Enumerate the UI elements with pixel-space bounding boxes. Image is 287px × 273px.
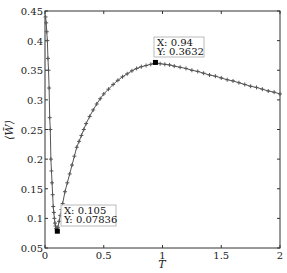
datatip-marker <box>153 60 158 65</box>
datatip-marker <box>55 229 60 234</box>
x-tick-label: 1.5 <box>213 250 229 261</box>
chart: 00.511.520.050.10.150.20.250.30.350.40.4… <box>0 0 287 273</box>
y-tick-label: 0.15 <box>21 184 43 195</box>
y-tick-label: 0.25 <box>21 125 43 136</box>
y-axis-label: ⟨W̄⟩ <box>3 120 16 140</box>
datatip-y-text: Y: 0.07836 <box>63 214 117 225</box>
x-tick-label: 2 <box>277 250 283 261</box>
plot-area: 00.511.520.050.10.150.20.250.30.350.40.4… <box>21 6 283 261</box>
y-tick-label: 0.4 <box>27 36 43 47</box>
datatip-y-text: Y: 0.3632 <box>156 46 204 57</box>
y-tick-label: 0.05 <box>21 243 43 254</box>
x-tick-label: 0.5 <box>96 250 112 261</box>
y-tick-label: 0.3 <box>27 95 43 106</box>
y-tick-label: 0.45 <box>21 6 43 17</box>
x-axis-label: T <box>158 258 167 271</box>
y-tick-label: 0.1 <box>27 213 43 224</box>
y-tick-label: 0.2 <box>27 154 43 165</box>
y-tick-label: 0.35 <box>21 65 43 76</box>
